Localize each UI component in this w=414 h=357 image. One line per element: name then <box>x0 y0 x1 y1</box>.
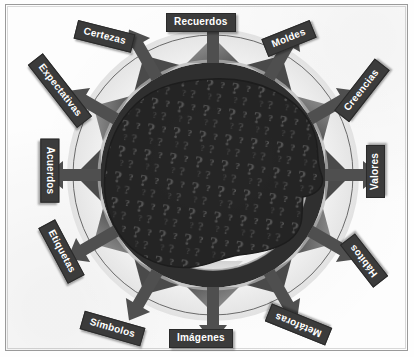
node-label-recuerdos[interactable]: Recuerdos <box>166 13 236 32</box>
node-label-acuerdos[interactable]: Acuerdos <box>40 139 59 203</box>
node-label-imagenes[interactable]: Imágenes <box>169 329 233 348</box>
page-frame: ? ? ? ? <box>5 4 408 351</box>
mind-filters-graphic: ? ? ? ? <box>53 27 373 339</box>
diagram-canvas: ? ? ? ? <box>0 0 414 357</box>
gear-ring-svg: ? ? ? ? <box>53 27 373 339</box>
node-label-valores[interactable]: Valores <box>366 145 385 198</box>
